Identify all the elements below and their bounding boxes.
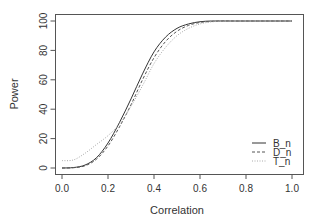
legend: B_nD_nT_n (252, 138, 291, 167)
x-tick-label: 0.4 (147, 183, 161, 194)
y-tick-label: 40 (38, 103, 49, 115)
plot-frame (56, 15, 304, 175)
legend-label: T_n (273, 156, 290, 167)
x-tick-label: 0.0 (55, 183, 69, 194)
y-tick-label: 0 (38, 165, 49, 171)
x-tick-label: 1.0 (285, 183, 299, 194)
series-b-n-line (62, 21, 292, 168)
y-tick-label: 100 (38, 12, 49, 29)
series-t-n-line (62, 21, 292, 161)
y-tick-label: 60 (38, 74, 49, 86)
series-lines (62, 21, 292, 168)
y-tick-label: 20 (38, 133, 49, 145)
x-tick-label: 0.6 (193, 183, 207, 194)
power-curve-chart: 0.00.20.40.60.81.0 020406080100 B_nD_nT_… (0, 0, 315, 222)
x-axis: 0.00.20.40.60.81.0 (55, 175, 299, 195)
series-d-n-line (62, 21, 292, 168)
x-tick-label: 0.8 (239, 183, 253, 194)
y-tick-label: 80 (38, 44, 49, 56)
x-tick-label: 0.2 (101, 183, 115, 194)
y-axis: 020406080100 (38, 12, 56, 171)
x-axis-label: Correlation (150, 204, 204, 216)
y-axis-label: Power (8, 78, 20, 110)
